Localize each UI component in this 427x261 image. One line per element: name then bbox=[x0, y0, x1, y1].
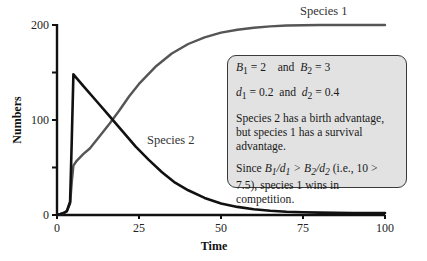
conclusion-text: Since B1/d1 > B2/d2 (i.e., 10 > 7.5), sp… bbox=[236, 162, 398, 207]
conclusion-prefix: Since bbox=[236, 162, 265, 175]
x-tick-label: 75 bbox=[297, 221, 309, 235]
y-tick-label: 0 bbox=[43, 208, 49, 222]
b2-value: = 3 bbox=[312, 61, 330, 74]
species-2-label: Species 2 bbox=[147, 133, 195, 147]
and-text: and bbox=[279, 86, 296, 99]
x-tick-label: 0 bbox=[54, 221, 60, 235]
x-tick-label: 50 bbox=[215, 221, 227, 235]
death-rates-line: d1 = 0.2 and d2 = 0.4 bbox=[236, 86, 398, 103]
ratio-formula: B1/d1 > B2/d2 bbox=[265, 162, 330, 175]
x-tick-label: 100 bbox=[376, 221, 394, 235]
y-tick-label: 100 bbox=[31, 113, 49, 127]
y-tick-label: 200 bbox=[31, 18, 49, 32]
x-tick-label: 25 bbox=[133, 221, 145, 235]
and-text: and bbox=[278, 61, 295, 74]
y-axis-title: Numbers bbox=[10, 96, 24, 144]
info-box: B1 = 2 and B2 = 3 d1 = 0.2 and d2 = 0.4 … bbox=[227, 55, 407, 188]
d2-value: = 0.4 bbox=[312, 86, 339, 99]
birth-rates-line: B1 = 2 and B2 = 3 bbox=[236, 61, 398, 78]
advantage-text: Species 2 has a birth advantage, but spe… bbox=[236, 112, 398, 154]
b1-value: = 2 bbox=[248, 61, 266, 74]
x-axis-title: Time bbox=[201, 239, 228, 253]
d1-value: = 0.2 bbox=[247, 86, 274, 99]
species-1-label: Species 1 bbox=[300, 4, 348, 18]
